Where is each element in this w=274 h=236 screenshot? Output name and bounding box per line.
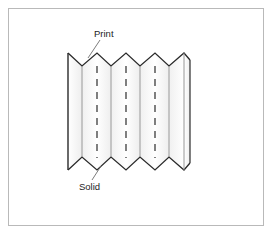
print-label: Print [94,28,114,39]
pleat-panel [82,53,97,170]
pleat-panel [97,53,111,170]
pleat-panel [68,53,82,170]
screenshot-root: Print Solid [0,0,274,236]
pleat-panels [68,53,190,170]
pleat-diagram: Print Solid [0,0,274,236]
pleat-panel [155,53,169,170]
pleat-panel [126,53,140,170]
pleat-panel-end [184,53,190,170]
pleat-panel [111,53,126,170]
pleat-panel [140,53,155,170]
pleat-panel [169,53,184,170]
solid-label: Solid [79,181,100,192]
